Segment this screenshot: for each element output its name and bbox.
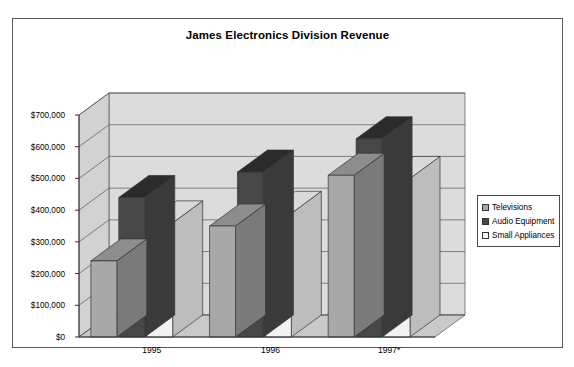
legend-swatch-icon — [482, 204, 489, 211]
legend-item[interactable]: Televisions — [482, 200, 554, 214]
y-axis-tick-label: $0 — [56, 333, 65, 342]
x-axis-tick-label: 1995 — [142, 345, 161, 355]
plot-area — [71, 71, 471, 341]
y-axis-tick-labels: $700,000$600,000$500,000$400,000$300,000… — [13, 71, 65, 341]
legend-swatch-icon — [482, 218, 489, 225]
y-axis-tick-label: $200,000 — [31, 269, 65, 278]
chart-frame: James Electronics Division Revenue $700,… — [12, 18, 563, 348]
y-axis-tick-label: $700,000 — [31, 111, 65, 120]
x-axis-tick-label: 1996 — [261, 345, 280, 355]
legend-item[interactable]: Audio Equipment — [482, 214, 554, 228]
legend-item-label: Audio Equipment — [492, 217, 554, 226]
y-axis-tick-label: $400,000 — [31, 206, 65, 215]
x-axis-tick-labels: 199519961997* — [71, 345, 471, 361]
x-axis-tick-label: 1997* — [378, 345, 400, 355]
chart-title: James Electronics Division Revenue — [13, 29, 562, 41]
legend-item[interactable]: Small Appliances — [482, 228, 554, 242]
legend-item-label: Small Appliances — [492, 231, 554, 240]
y-axis-tick-label: $500,000 — [31, 174, 65, 183]
y-axis-tick-label: $300,000 — [31, 237, 65, 246]
legend-item-label: Televisions — [492, 203, 532, 212]
y-axis-tick-label: $600,000 — [31, 142, 65, 151]
legend-swatch-icon — [482, 232, 489, 239]
y-axis-tick-label: $100,000 — [31, 301, 65, 310]
chart-legend: TelevisionsAudio EquipmentSmall Applianc… — [477, 195, 560, 247]
bar-chart-svg — [71, 71, 471, 341]
